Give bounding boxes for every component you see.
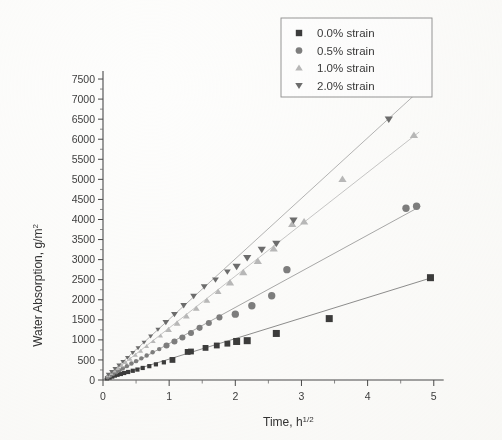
data-point — [233, 338, 240, 345]
y-axis-title-superscript: 2 — [31, 224, 40, 229]
data-point — [190, 294, 197, 299]
data-point — [157, 347, 161, 351]
data-point — [170, 357, 176, 363]
data-point — [283, 266, 290, 273]
data-point — [212, 277, 219, 282]
data-point — [197, 325, 203, 331]
data-series-0 — [105, 274, 434, 380]
trend-line-series-2 — [104, 132, 419, 379]
legend-marker-icon — [296, 30, 302, 36]
x-tick-label: 1 — [166, 390, 172, 402]
x-axis-title-superscript: 1/2 — [303, 415, 315, 424]
data-point — [141, 366, 145, 370]
data-point — [232, 311, 239, 318]
data-point — [125, 364, 129, 368]
trend-line — [104, 277, 432, 379]
y-tick-label: 4000 — [72, 213, 96, 225]
data-point — [163, 342, 169, 348]
y-tick-label: 3500 — [72, 233, 96, 245]
data-point — [126, 370, 130, 374]
data-point — [214, 343, 220, 349]
y-tick-label: 6000 — [72, 133, 96, 145]
scatter-plot-canvas: 0500100015002000250030003500400045005000… — [0, 0, 502, 440]
data-point — [300, 218, 308, 225]
data-point — [233, 264, 241, 271]
data-point — [338, 176, 346, 183]
data-point — [244, 337, 251, 344]
x-tick-label: 4 — [365, 390, 371, 402]
y-tick-label: 5000 — [72, 173, 96, 185]
y-tick-label: 2000 — [72, 293, 96, 305]
x-tick-label: 5 — [431, 390, 437, 402]
data-point — [144, 353, 148, 357]
legend-item-label: 0.0% strain — [317, 27, 375, 39]
x-tick-label: 3 — [299, 390, 305, 402]
trend-line-series-0 — [104, 277, 432, 379]
data-point — [158, 334, 163, 338]
data-point — [179, 334, 185, 340]
data-point — [139, 356, 143, 360]
data-point — [147, 364, 151, 368]
data-point — [258, 247, 266, 254]
x-axis-ticks: 012345 — [100, 380, 437, 402]
legend-item-label: 0.5% strain — [317, 45, 375, 57]
data-point — [151, 339, 156, 343]
data-point — [188, 349, 194, 355]
x-tick-label: 0 — [100, 390, 106, 402]
data-point — [326, 315, 333, 322]
data-point — [216, 314, 222, 320]
y-tick-label: 0 — [89, 374, 95, 386]
data-point — [162, 360, 166, 364]
legend-item-label: 2.0% strain — [317, 80, 375, 92]
data-series-1 — [105, 203, 420, 380]
y-axis-ticks: 0500100015002000250030003500400045005000… — [72, 73, 103, 386]
data-point — [122, 371, 126, 375]
x-tick-label: 2 — [232, 390, 238, 402]
data-point — [154, 362, 158, 366]
data-point — [385, 116, 393, 123]
data-point — [188, 330, 194, 336]
y-tick-label: 6500 — [72, 113, 96, 125]
data-point — [131, 369, 135, 373]
legend-marker-icon — [296, 47, 303, 54]
data-point — [203, 345, 209, 351]
data-point — [134, 359, 138, 363]
data-point — [135, 367, 139, 371]
data-point — [427, 274, 434, 281]
data-point — [174, 320, 181, 325]
data-point — [224, 269, 231, 274]
y-tick-label: 5500 — [72, 153, 96, 165]
data-point — [129, 361, 133, 365]
data-point — [402, 205, 409, 212]
x-axis-title: Time, h1/2 — [263, 415, 314, 429]
data-point — [165, 327, 172, 332]
data-point — [150, 350, 154, 354]
data-point — [248, 302, 255, 309]
data-point — [410, 131, 418, 138]
data-point — [183, 313, 190, 318]
data-series-2 — [106, 131, 418, 377]
trend-line — [104, 132, 419, 379]
data-point — [243, 255, 251, 262]
legend: 0.0% strain0.5% strain1.0% strain2.0% st… — [281, 18, 432, 97]
y-tick-label: 7000 — [72, 93, 96, 105]
y-axis-title: Water Absorption, g/m2 — [31, 224, 45, 347]
y-tick-label: 4500 — [72, 193, 96, 205]
y-tick-label: 1500 — [72, 313, 96, 325]
data-point — [224, 341, 230, 347]
y-tick-label: 500 — [77, 354, 95, 366]
data-point — [201, 284, 208, 289]
data-point — [273, 330, 280, 337]
y-tick-label: 1000 — [72, 333, 96, 345]
legend-item-label: 1.0% strain — [317, 62, 375, 74]
chart-figure: 0500100015002000250030003500400045005000… — [0, 0, 502, 440]
data-point — [268, 292, 275, 299]
y-tick-label: 3000 — [72, 253, 96, 265]
data-point — [171, 338, 177, 344]
data-point — [413, 203, 420, 210]
y-tick-label: 7500 — [72, 73, 96, 85]
data-point — [206, 320, 212, 326]
y-tick-label: 2500 — [72, 273, 96, 285]
